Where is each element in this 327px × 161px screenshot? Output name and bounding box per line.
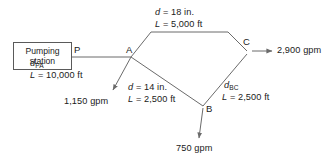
- pipe-AB-diameter-value: = 14 in.: [136, 82, 167, 92]
- pipe-AB-length-value: = 2,500 ft: [136, 94, 176, 104]
- pipe-BC-length-var: L: [222, 92, 227, 102]
- pipe-PA-length-label: L = 10,000 ft: [30, 70, 83, 82]
- pipe-BC-diameter-sub: BC: [229, 84, 238, 91]
- pipe-PA-length-value: = 10,000 ft: [38, 70, 83, 80]
- pipe-AC-diameter-var: d: [155, 7, 160, 17]
- pipe-AC-length-label: L = 5,000 ft: [155, 19, 202, 31]
- pipe-AB-length-var: L: [128, 94, 133, 104]
- demand-label-B: 750 gpm: [176, 143, 212, 155]
- pipe-AC: [131, 32, 247, 57]
- node-label-P: P: [74, 44, 80, 56]
- pipe-PA-diameter-label: dPA: [30, 58, 44, 70]
- demand-label-A: 1,150 gpm: [64, 96, 108, 108]
- pipe-BC-length-label: L = 2,500 ft: [222, 92, 269, 104]
- demand-label-C: 2,900 gpm: [277, 45, 321, 57]
- pipe-AC-length-var: L: [155, 19, 160, 29]
- pipe-AC-diameter-label: d = 18 in.: [155, 7, 194, 19]
- pipe-AC-length-value: = 5,000 ft: [163, 19, 203, 29]
- pipe-AC-diameter-value: = 18 in.: [163, 7, 194, 17]
- pipe-PA-length-var: L: [30, 70, 35, 80]
- node-label-C: C: [243, 36, 250, 48]
- pipe-AB-length-label: L = 2,500 ft: [128, 94, 175, 106]
- pipe-network-diagram: Pumping station P A B C dPA L = 10,000 f…: [0, 0, 327, 161]
- pumping-station-line1: Pumping: [26, 46, 60, 57]
- node-label-B: B: [206, 103, 212, 115]
- pipe-BC-length-value: = 2,500 ft: [230, 92, 270, 102]
- pipe-PA-diameter-sub: PA: [35, 62, 44, 69]
- demand-arrow-B: [199, 108, 203, 138]
- pipe-BC-diameter-label: dBC: [224, 80, 239, 92]
- pipe-AB-diameter-var: d: [128, 82, 133, 92]
- pipe-AB-diameter-label: d = 14 in.: [128, 82, 167, 94]
- node-label-A: A: [126, 44, 132, 56]
